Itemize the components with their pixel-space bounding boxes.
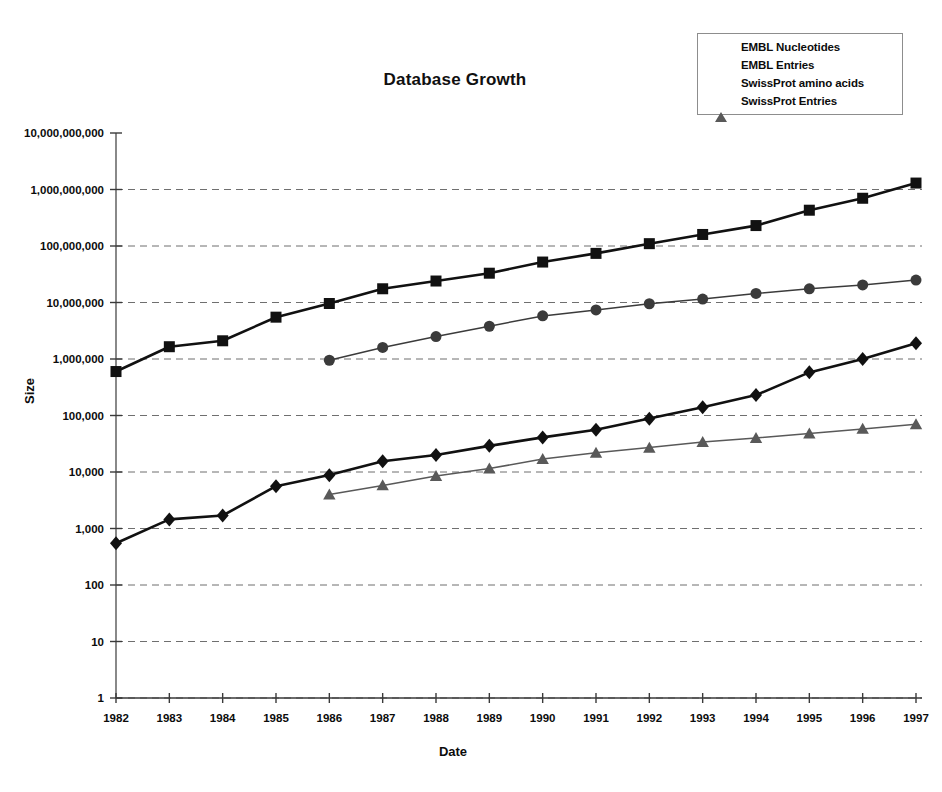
x-axis: 1982198319841985198619871988198919901991… bbox=[103, 693, 929, 724]
data-point-marker bbox=[591, 304, 602, 315]
x-axis-tick-label: 1982 bbox=[103, 712, 129, 724]
data-point-marker bbox=[271, 312, 282, 323]
data-point-marker bbox=[751, 288, 762, 299]
series-embl-entries bbox=[110, 336, 922, 550]
data-point-marker bbox=[430, 448, 442, 462]
data-point-marker bbox=[697, 229, 708, 240]
data-point-marker bbox=[217, 508, 229, 522]
data-point-marker bbox=[537, 257, 548, 268]
y-axis-tick-label: 10 bbox=[91, 636, 104, 648]
series-line bbox=[116, 343, 916, 543]
data-point-marker bbox=[377, 454, 389, 468]
x-axis-tick-label: 1991 bbox=[583, 712, 609, 724]
x-axis-tick-label: 1993 bbox=[690, 712, 716, 724]
data-point-marker bbox=[537, 310, 548, 321]
data-point-marker bbox=[910, 418, 922, 429]
series-line bbox=[116, 183, 916, 371]
x-axis-tick-label: 1988 bbox=[423, 712, 449, 724]
data-point-marker bbox=[910, 336, 922, 350]
y-axis-tick-label: 1,000,000,000 bbox=[30, 184, 104, 196]
data-point-marker bbox=[804, 205, 815, 216]
data-point-marker bbox=[644, 298, 655, 309]
series-swissprot-amino-acids bbox=[324, 275, 922, 366]
y-axis-tick-label: 10,000 bbox=[69, 466, 104, 478]
data-point-marker bbox=[857, 193, 868, 204]
x-axis-title: Date bbox=[0, 744, 924, 759]
x-axis-tick-label: 1985 bbox=[263, 712, 289, 724]
data-point-marker bbox=[644, 238, 655, 249]
y-axis-tick-label: 100 bbox=[85, 579, 104, 591]
data-point-marker bbox=[323, 468, 335, 482]
data-point-marker bbox=[911, 178, 922, 189]
data-point-marker bbox=[217, 335, 228, 346]
data-point-marker bbox=[377, 342, 388, 353]
data-point-marker bbox=[324, 355, 335, 366]
y-axis-tick-label: 100,000 bbox=[62, 410, 104, 422]
data-point-marker bbox=[697, 294, 708, 305]
data-point-marker bbox=[857, 279, 868, 290]
data-series-group bbox=[110, 178, 922, 551]
x-axis-tick-label: 1987 bbox=[370, 712, 396, 724]
series-embl-nucleotides bbox=[111, 178, 922, 377]
data-point-marker bbox=[803, 365, 815, 379]
y-axis-tick-label: 1,000,000 bbox=[53, 353, 104, 365]
data-point-marker bbox=[111, 366, 122, 377]
y-axis: 10,000,000,0001,000,000,000100,000,00010… bbox=[24, 127, 122, 704]
data-point-marker bbox=[804, 283, 815, 294]
y-axis-tick-label: 10,000,000,000 bbox=[24, 127, 104, 139]
data-point-marker bbox=[590, 423, 602, 437]
y-axis-tick-label: 1 bbox=[98, 692, 105, 704]
series-line bbox=[329, 280, 916, 360]
data-point-marker bbox=[911, 275, 922, 286]
data-point-marker bbox=[751, 220, 762, 231]
y-axis-title: Size bbox=[22, 378, 37, 404]
data-point-marker bbox=[377, 283, 388, 294]
x-axis-tick-label: 1986 bbox=[317, 712, 343, 724]
data-point-marker bbox=[484, 268, 495, 279]
x-axis-tick-label: 1994 bbox=[743, 712, 769, 724]
data-point-marker bbox=[537, 430, 549, 444]
data-point-marker bbox=[163, 512, 175, 526]
chart-svg: 10,000,000,0001,000,000,000100,000,00010… bbox=[0, 0, 942, 792]
chart-plot-area: 10,000,000,0001,000,000,000100,000,00010… bbox=[0, 0, 942, 792]
x-axis-tick-label: 1984 bbox=[210, 712, 236, 724]
data-point-marker bbox=[324, 298, 335, 309]
x-axis-tick-label: 1989 bbox=[477, 712, 503, 724]
y-axis-tick-label: 100,000,000 bbox=[40, 240, 104, 252]
data-point-marker bbox=[484, 321, 495, 332]
series-line bbox=[329, 424, 916, 494]
x-axis-tick-label: 1996 bbox=[850, 712, 876, 724]
data-point-marker bbox=[483, 439, 495, 453]
x-axis-tick-label: 1992 bbox=[637, 712, 663, 724]
data-point-marker bbox=[164, 341, 175, 352]
data-point-marker bbox=[431, 276, 442, 287]
x-axis-tick-label: 1997 bbox=[903, 712, 929, 724]
data-point-marker bbox=[643, 412, 655, 426]
y-axis-tick-label: 1,000 bbox=[75, 523, 104, 535]
data-point-marker bbox=[431, 331, 442, 342]
data-point-marker bbox=[750, 388, 762, 402]
x-axis-tick-label: 1983 bbox=[157, 712, 183, 724]
data-point-marker bbox=[591, 248, 602, 259]
data-point-marker bbox=[857, 352, 869, 366]
data-point-marker bbox=[697, 400, 709, 414]
data-point-marker bbox=[270, 479, 282, 493]
x-axis-tick-label: 1990 bbox=[530, 712, 556, 724]
data-point-marker bbox=[110, 536, 122, 550]
y-axis-tick-label: 10,000,000 bbox=[46, 297, 104, 309]
x-axis-tick-label: 1995 bbox=[797, 712, 823, 724]
